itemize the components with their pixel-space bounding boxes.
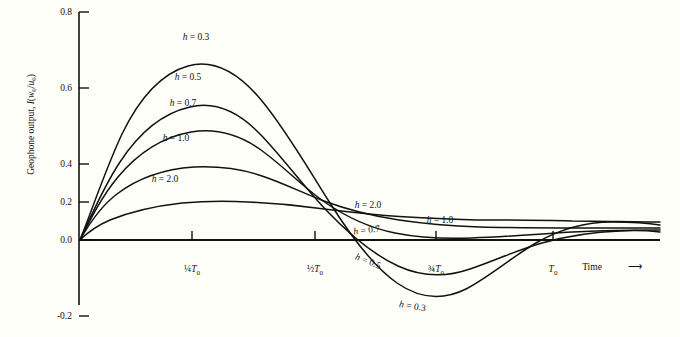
curve-labels-peaks: h = 0.3 h = 0.5 h = 0.7 h = 1.0 h = 2.0 (152, 32, 210, 184)
y-axis-tick-labels: 0.8 0.6 0.4 0.2 0.0 -0.2 (57, 7, 72, 321)
curve-label-h-0-7-eq: = (174, 98, 184, 108)
y-axis-title-close-paren: ) (26, 74, 36, 77)
y-axis-title-numerator: w (26, 92, 36, 98)
y-axis-title-slash: / (26, 86, 36, 89)
x-tick-label-t0: T0 (549, 264, 558, 277)
curve-label-h-2-0-value: 2.0 (166, 174, 178, 184)
curve-label-h-1-0-peak: h = 1.0 (163, 133, 190, 143)
curve-label-h-2-0-tail: h = 2.0 (355, 200, 382, 210)
y-axis-title-denominator-sub: 0 (30, 77, 38, 81)
curve-label-h-2-0-tail-eq: = (359, 200, 369, 210)
curve-label-h-0-5-eq: = (179, 72, 189, 82)
curve-label-h-1-0-tail: h = 1.0 (427, 215, 454, 225)
y-tick-label-1: 0.6 (60, 83, 72, 93)
y-axis-title-denominator: u (26, 81, 36, 86)
x-tick-label-1-fraction: ½ (307, 264, 314, 274)
curve-label-h-1-0-tail-eq: = (431, 215, 441, 225)
curve-label-h-0-3-tail: h = 0.3 (398, 299, 426, 314)
curve-label-h-0-3-peak: h = 0.3 (183, 32, 210, 42)
x-tick-label-half-t0: ½T0 (307, 264, 323, 277)
x-tick-label-0-sub: 0 (196, 269, 200, 277)
x-axis-title: Time (582, 262, 602, 272)
curve-label-h-0-7-value: 0.7 (184, 98, 196, 108)
y-axis-title-symbol: I (26, 101, 36, 104)
curve-label-h-0-5-value: 0.5 (189, 72, 201, 82)
curve-label-h-2-0-eq: = (156, 174, 166, 184)
y-tick-label-5: -0.2 (57, 311, 72, 321)
curve-label-h-0-7-peak: h = 0.7 (170, 98, 197, 108)
curve-label-h-0-7-tail: h = 0.7 (353, 224, 381, 237)
y-axis-title-open-paren: ( (26, 98, 36, 101)
y-tick-label-3: 0.2 (60, 197, 72, 207)
geophone-response-chart: Geophone output, I(w0/u0) 0.8 0.6 0.4 0.… (0, 0, 680, 337)
curve-h-0-7 (80, 131, 660, 240)
curve-label-h-0-7-tail-value: 0.7 (368, 224, 381, 235)
curve-label-h-2-0-peak: h = 2.0 (152, 174, 179, 184)
y-axis-title: Geophone output, I(w0/u0) (26, 24, 39, 224)
x-axis-arrow-icon: ⟶ (628, 262, 642, 272)
curve-label-h-0-3-eq: = (187, 32, 197, 42)
y-axis-ticks (79, 12, 89, 316)
curve-label-h-2-0-tail-value: 2.0 (369, 200, 381, 210)
curve-label-h-0-5-peak: h = 0.5 (175, 72, 202, 82)
y-axis-title-prefix: Geophone output, (26, 104, 36, 174)
curve-h-0-5 (80, 105, 660, 274)
curve-label-h-0-3-value: 0.3 (197, 32, 209, 42)
chart-canvas: 0.8 0.6 0.4 0.2 0.0 -0.2 ¼T0 ½T0 ¾T0 (0, 0, 680, 337)
x-tick-label-2-fraction: ¾ (428, 264, 435, 274)
y-tick-label-2: 0.4 (60, 159, 72, 169)
x-tick-label-3-sub: 0 (554, 269, 558, 277)
y-tick-label-4: 0.0 (60, 235, 72, 245)
curve-label-h-0-3-tail-value: 0.3 (413, 301, 427, 313)
x-tick-label-0-fraction: ¼ (184, 264, 191, 274)
x-tick-label-1-sub: 0 (319, 269, 323, 277)
x-tick-label-quarter-t0: ¼T0 (184, 264, 200, 277)
curve-label-h-1-0-value: 1.0 (177, 133, 189, 143)
y-axis-title-numerator-sub: 0 (30, 88, 38, 92)
curve-label-h-1-0-eq: = (167, 133, 177, 143)
y-tick-label-0: 0.8 (60, 7, 72, 17)
curve-label-h-1-0-tail-value: 1.0 (441, 215, 453, 225)
